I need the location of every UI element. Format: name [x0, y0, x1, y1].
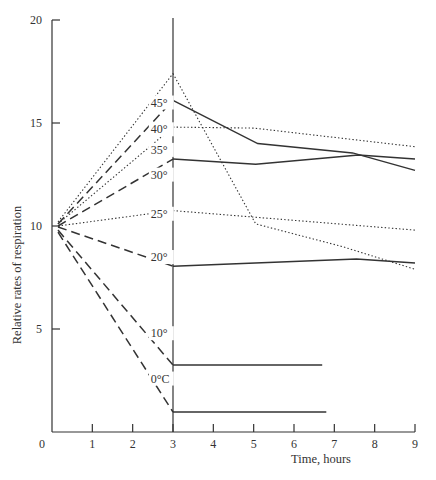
axes: 20151050123456789: [30, 13, 418, 451]
series-40-after: [173, 100, 415, 170]
y-tick-label: 15: [30, 116, 42, 130]
y-axis-title: Relative rates of respiration: [10, 205, 24, 344]
series-35-after: [173, 127, 415, 147]
series-label-40: 40°: [151, 122, 168, 136]
x-tick-label: 0: [39, 437, 45, 451]
y-tick-label: 5: [36, 322, 42, 336]
x-tick-label: 7: [331, 437, 337, 451]
series-label-20: 20°: [151, 250, 168, 264]
series-label-25: 25°: [151, 207, 168, 221]
series-label-0C: 0°C: [151, 372, 170, 386]
series-40-before: [58, 100, 173, 224]
series-45-after: [173, 74, 415, 270]
x-tick-label: 5: [251, 437, 257, 451]
series-25-after: [173, 211, 415, 231]
x-tick-label: 1: [89, 437, 95, 451]
x-tick-label: 9: [412, 437, 418, 451]
x-axis-title: Time, hours: [291, 452, 351, 466]
x-tick-label: 8: [372, 437, 378, 451]
x-tick-label: 3: [170, 437, 176, 451]
series-label-45: 45°: [151, 96, 168, 110]
chart-canvas: 20151050123456789 45°40°35°30°25°20°10°0…: [0, 0, 436, 480]
series-20-after: [173, 259, 415, 266]
x-tick-label: 2: [130, 437, 136, 451]
y-tick-label: 20: [30, 13, 42, 27]
x-tick-label: 4: [210, 437, 216, 451]
x-tick-label: 6: [291, 437, 297, 451]
respiration-chart: 20151050123456789 45°40°35°30°25°20°10°0…: [0, 0, 436, 480]
series-label-10: 10°: [151, 326, 168, 340]
y-tick-label: 10: [30, 219, 42, 233]
series-label-30: 30°: [151, 168, 168, 182]
series-label-35: 35°: [151, 143, 168, 157]
data-series: [58, 74, 415, 412]
